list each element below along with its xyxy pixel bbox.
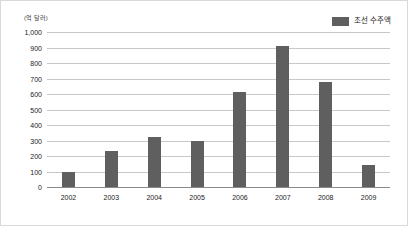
y-axis-tick-label: 100	[30, 168, 42, 175]
plot-area: 1,0009008007006005004003002001000 200220…	[47, 32, 390, 187]
y-axis-tick-label: 800	[30, 60, 42, 67]
chart-legend: 조선 수주액	[332, 15, 391, 27]
x-axis-tick-label: 2009	[361, 194, 377, 201]
x-axis-tick-label: 2005	[189, 194, 205, 201]
bar[interactable]	[276, 46, 289, 187]
y-axis-tick-label: 1,000	[24, 29, 42, 36]
bar[interactable]	[362, 165, 375, 187]
bar-slot: 2008	[304, 32, 347, 187]
y-axis-tick-label: 0	[38, 184, 42, 191]
x-axis-tick-label: 2004	[146, 194, 162, 201]
x-axis-tick-label: 2002	[61, 194, 77, 201]
x-axis-tick-label: 2003	[104, 194, 120, 201]
legend-swatch-icon	[332, 17, 349, 26]
bar[interactable]	[148, 137, 161, 187]
legend-label: 조선 수주액	[354, 17, 391, 25]
bar[interactable]	[233, 92, 246, 187]
bar-slot: 2002	[47, 32, 90, 187]
y-axis-tick-label: 500	[30, 106, 42, 113]
y-axis-tick-label: 900	[30, 44, 42, 51]
bar[interactable]	[105, 151, 118, 187]
bar-slot: 2004	[133, 32, 176, 187]
bar-slot: 2007	[261, 32, 304, 187]
bar-series: 20022003200420052006200720082009	[47, 32, 390, 187]
y-axis-tick-label: 700	[30, 75, 42, 82]
y-axis-unit-label: (억 달러)	[24, 15, 48, 21]
bar-slot: 2009	[347, 32, 390, 187]
bar[interactable]	[191, 141, 204, 188]
bar-slot: 2005	[176, 32, 219, 187]
y-axis-tick-label: 400	[30, 122, 42, 129]
chart-container: 조선 수주액 (억 달러) 1,000900800700600500400300…	[0, 0, 408, 226]
bar-slot: 2006	[219, 32, 262, 187]
y-axis-tick-label: 600	[30, 91, 42, 98]
x-axis-tick-label: 2008	[318, 194, 334, 201]
x-axis-tick-label: 2006	[232, 194, 248, 201]
gridline	[47, 187, 390, 188]
x-axis-tick-label: 2007	[275, 194, 291, 201]
y-axis-tick-label: 300	[30, 137, 42, 144]
bar[interactable]	[62, 172, 75, 188]
y-axis-tick-label: 200	[30, 153, 42, 160]
bar[interactable]	[319, 82, 332, 187]
bar-slot: 2003	[90, 32, 133, 187]
